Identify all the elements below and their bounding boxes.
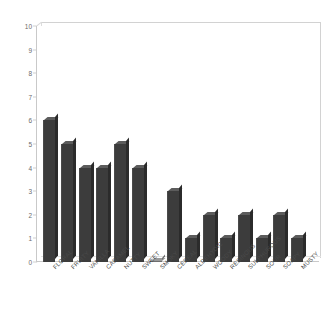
y-axis-tick-label: 5 (10, 141, 32, 148)
bar-side-face (144, 161, 147, 259)
bar-side-face (303, 232, 306, 259)
y-axis-tick-label: 1 (10, 235, 32, 242)
bar-side-face (108, 161, 111, 259)
bar[interactable] (114, 144, 126, 262)
bar-side-face (126, 137, 129, 259)
bar[interactable] (43, 120, 55, 262)
bar-side-face (55, 114, 58, 259)
y-axis-tick-label: 8 (10, 70, 32, 77)
bar-side-face (179, 185, 182, 259)
y-axis-tick-label: 9 (10, 46, 32, 53)
bar[interactable] (132, 168, 144, 262)
y-axis-tick-label: 4 (10, 164, 32, 171)
y-axis-tick-label: 6 (10, 117, 32, 124)
bar-side-face (285, 208, 288, 259)
y-axis-tick-label: 0 (10, 259, 32, 266)
y-axis-tick-label: 2 (10, 211, 32, 218)
bar-chart: 012345678910 FLORALFRUITYVANILLACARAMELN… (0, 0, 326, 321)
bar[interactable] (79, 168, 91, 262)
y-axis-tick-label: 10 (10, 23, 32, 30)
bar[interactable] (61, 144, 73, 262)
bar-side-face (91, 161, 94, 259)
bar-side-face (197, 232, 200, 259)
y-axis-tick-label: 3 (10, 188, 32, 195)
bar-side-face (73, 137, 76, 259)
bar-side-face (232, 232, 235, 259)
bars-layer (36, 26, 319, 262)
y-axis-tick-label: 7 (10, 93, 32, 100)
